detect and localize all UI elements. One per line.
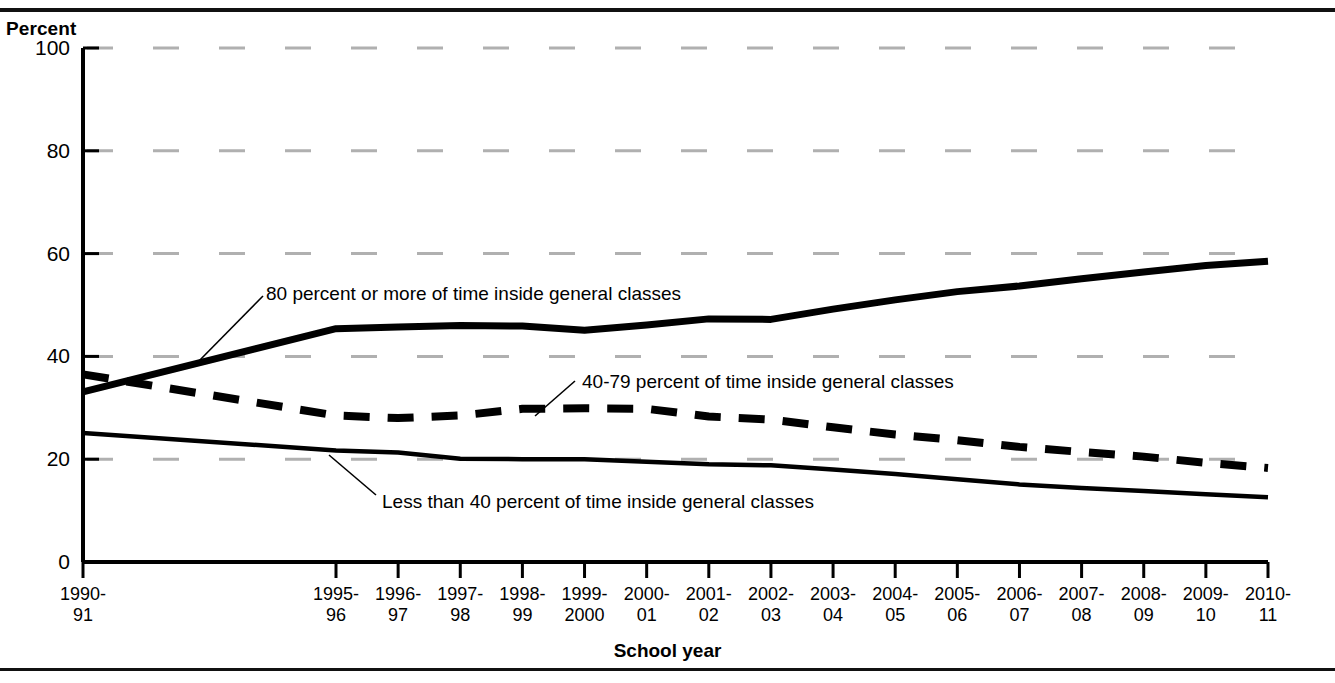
axis-lines	[83, 48, 1268, 562]
series-label-80-percent-or-more: 80 percent or more of time inside genera…	[266, 283, 681, 305]
series-label-40-79-percent: 40-79 percent of time inside general cla…	[582, 371, 954, 393]
y-tick-label-0: 0	[10, 551, 70, 572]
y-tick-label-80: 80	[10, 140, 70, 161]
x-tick-marks	[83, 562, 1268, 578]
y-tick-label-100: 100	[10, 37, 70, 58]
series-label-less-than-40-percent: Less than 40 percent of time inside gene…	[382, 491, 814, 513]
x-axis-title: School year	[0, 640, 1335, 662]
y-tick-marks	[83, 48, 99, 562]
leader-line-series-3	[329, 455, 376, 495]
gridlines	[87, 48, 1274, 459]
y-tick-label-60: 60	[10, 243, 70, 264]
x-tick-label-16: 2010- 11	[1223, 584, 1313, 626]
y-tick-label-40: 40	[10, 345, 70, 366]
y-tick-label-20: 20	[10, 448, 70, 469]
x-tick-label-0: 1990- 91	[38, 584, 128, 626]
chart-figure: Percent 020406080100 1990- 911995- 96199…	[0, 0, 1335, 683]
series-line-2	[83, 433, 1268, 497]
plot-area	[0, 0, 1335, 683]
